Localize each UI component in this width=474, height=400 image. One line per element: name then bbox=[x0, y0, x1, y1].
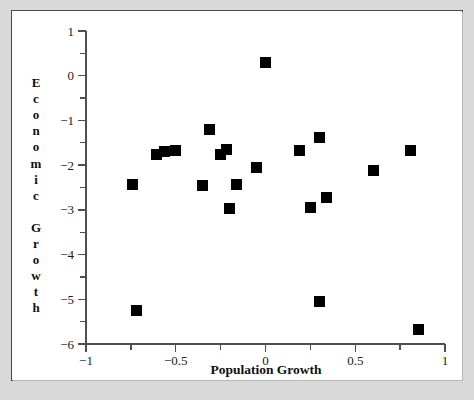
y-axis-title-letter: t bbox=[34, 284, 39, 299]
data-point bbox=[368, 165, 379, 176]
x-axis-title: Population Growth bbox=[210, 362, 322, 377]
y-axis-title-letter: w bbox=[31, 268, 41, 283]
y-tick-label: −3 bbox=[60, 202, 74, 217]
y-axis-title-letter: o bbox=[33, 107, 40, 122]
data-point bbox=[204, 124, 215, 135]
data-point bbox=[221, 144, 232, 155]
y-tick-label: −4 bbox=[60, 247, 74, 262]
y-axis-title-letter: m bbox=[31, 156, 42, 171]
data-point bbox=[305, 202, 316, 213]
y-tick-label: −2 bbox=[60, 158, 74, 173]
y-tick-label: −6 bbox=[60, 337, 74, 352]
data-point bbox=[321, 192, 332, 203]
y-axis-title-letter: o bbox=[33, 252, 40, 267]
y-axis-title-letter: G bbox=[31, 220, 41, 235]
y-tick-label: −1 bbox=[60, 113, 74, 128]
data-point bbox=[231, 179, 242, 190]
data-point bbox=[314, 132, 325, 143]
data-point bbox=[405, 145, 416, 156]
y-axis-title-letter: c bbox=[33, 91, 39, 106]
y-axis-title-letter: n bbox=[32, 123, 40, 138]
figure-root: 10−1−2−3−4−5−6 −1−0.500.51 Population Gr… bbox=[0, 0, 474, 400]
data-point bbox=[197, 180, 208, 191]
x-tick-label: −0.5 bbox=[164, 353, 188, 368]
data-point bbox=[224, 203, 235, 214]
y-axis-title-letter: E bbox=[32, 75, 41, 90]
x-tick-label: 1 bbox=[442, 353, 449, 368]
y-axis-ticks bbox=[78, 31, 86, 344]
data-point bbox=[131, 305, 142, 316]
x-tick-label: −1 bbox=[79, 353, 93, 368]
data-point bbox=[314, 296, 325, 307]
y-axis-title-letter: i bbox=[34, 172, 38, 187]
x-axis-ticks bbox=[86, 344, 445, 352]
scatter-chart-svg: 10−1−2−3−4−5−6 −1−0.500.51 Population Gr… bbox=[0, 0, 474, 400]
data-point bbox=[170, 145, 181, 156]
y-axis-title-letter: h bbox=[32, 300, 40, 315]
y-tick-label: 1 bbox=[68, 24, 75, 39]
scatter-plot: 10−1−2−3−4−5−6 −1−0.500.51 Population Gr… bbox=[0, 0, 474, 400]
x-tick-label: 0.5 bbox=[347, 353, 363, 368]
y-tick-label: −5 bbox=[60, 292, 74, 307]
y-tick-label: 0 bbox=[68, 68, 75, 83]
data-point bbox=[251, 162, 262, 173]
data-point bbox=[127, 179, 138, 190]
data-point bbox=[260, 57, 271, 68]
y-axis-title-letter: c bbox=[33, 188, 39, 203]
data-point bbox=[159, 146, 170, 157]
y-axis-tick-labels: 10−1−2−3−4−5−6 bbox=[60, 24, 74, 352]
data-point bbox=[413, 324, 424, 335]
y-axis-title-letter: r bbox=[33, 236, 39, 251]
y-axis-title: EconomicGrowth bbox=[31, 75, 42, 315]
data-point-group bbox=[127, 57, 423, 335]
data-point bbox=[294, 145, 305, 156]
y-axis-title-letter: o bbox=[33, 139, 40, 154]
